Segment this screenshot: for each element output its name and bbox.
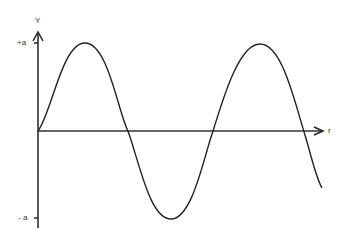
- y-axis-label: Y: [35, 16, 40, 25]
- sine-wave-diagram: [0, 0, 347, 239]
- x-axis-label: r: [328, 126, 331, 135]
- y-min-label: - a: [18, 213, 27, 222]
- y-max-label: +a: [17, 38, 26, 47]
